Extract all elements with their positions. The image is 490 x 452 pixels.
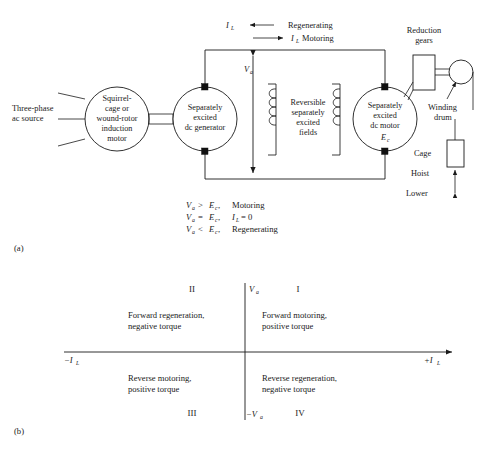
quadrant-numeral-I: I [297,284,300,294]
regenerating-label: Regenerating [288,21,333,30]
motor-positive-terminal [382,84,388,90]
dc-motor-line1: Separately [368,101,403,110]
motoring-current-subscript: L [295,38,299,44]
quadrant-II-line2: negative torque [128,321,181,331]
eq2-relation: < [198,224,203,234]
induction-motor-line1: Squirrel- [102,94,131,103]
dc-motor-line2: excited [373,111,397,120]
quadrant-numeral-II: II [189,284,195,294]
x-axis-negative-symbol: −I [64,355,74,365]
induction-motor-line3: wound-rotor [97,114,138,123]
regenerating-current-symbol: I [225,21,230,30]
y-axis-negative-symbol: −V [246,409,259,419]
eq1-right: E [208,212,215,222]
regenerating-current-subscript: L [230,25,234,31]
fields-line3: excited [296,118,320,127]
dc-motor-emf-subscript: c [387,137,390,143]
winding-drum-line1: Winding [428,103,458,112]
winding-drum-symbol [449,60,473,84]
lower-label: Lower [406,189,428,198]
dc-generator-line1: Separately [188,103,223,112]
part-a-label: (a) [14,243,24,253]
quadrant-axes [64,283,452,420]
eq1-relation: = [198,212,203,222]
cage-label: Cage [414,149,431,158]
generator-negative-terminal [202,148,208,154]
x-axis-positive-subscript: L [436,360,440,366]
quadrant-II-line1: Forward regeneration, [128,310,204,320]
eq1-result-relation: = 0 [241,212,252,222]
source-label-line1: Three-phase [12,104,54,113]
quadrant-numeral-IV: IV [295,408,305,418]
reduction-gears-line2: gears [415,36,433,45]
eq1-result-subscript: L [235,217,239,223]
eq0-comma: , [218,200,220,210]
quadrant-IV-line1: Reverse regeneration, [262,373,337,383]
quadrant-III-line1: Reverse motoring, [128,373,191,383]
induction-motor-line2: cage or [105,104,129,113]
eq0-result: Motoring [232,200,265,210]
eq2-left-sub: a [192,229,195,235]
y-axis-positive-symbol: V [249,284,256,294]
cage-box [447,140,464,167]
quadrant-I-line2: positive torque [262,321,314,331]
motoring-label: Motoring [302,34,334,43]
part-b-label: (b) [14,426,24,436]
winding-drum-line2: drum [434,113,452,122]
eq2-result: Regenerating [232,224,279,234]
eq2-comma: , [218,224,220,234]
armature-voltage-subscript: a [250,69,253,75]
motoring-current-symbol: I [290,34,295,43]
field-coil-right [332,84,340,155]
quadrant-numeral-III: III [188,408,197,418]
dc-generator-line3: dc generator [185,123,226,132]
eq1-left-sub: a [192,217,195,223]
reduction-gears-line1: Reduction [407,26,442,35]
shaft-coupling-left [149,114,173,124]
operating-conditions: V a > E c , Motoring V a = E c , I L = 0… [186,200,279,235]
figure-canvas: Three-phase ac source Squirrel- cage or … [0,0,490,452]
eq2-right: E [208,224,215,234]
eq0-right: E [208,200,215,210]
dc-motor-line3: dc motor [370,121,400,130]
quadrant-IV-line2: negative torque [262,384,315,394]
x-axis-negative-subscript: L [75,360,79,366]
fields-line2: separately [291,108,325,117]
quadrant-I-line1: Forward motoring, [262,310,327,320]
y-axis-positive-subscript: a [256,289,259,295]
reduction-gears-box [413,55,435,90]
winding-drum-pointer [447,82,456,99]
quadrant-III-line2: positive torque [128,384,180,394]
induction-motor-line5: motor [107,134,127,143]
three-phase-feed-lines [58,93,86,146]
y-axis-negative-subscript: a [260,414,263,420]
hoist-label: Hoist [411,169,430,178]
fields-line4: fields [299,128,317,137]
fields-line1: Reversible [290,98,325,107]
figure-page: Three-phase ac source Squirrel- cage or … [0,0,490,452]
dc-motor-emf-symbol: E [380,133,386,142]
field-coil-left [268,84,276,155]
induction-motor-line4: induction [102,124,133,133]
source-label-line2: ac source [12,114,44,123]
x-axis-positive-symbol: +I [424,355,434,365]
motor-negative-terminal [382,148,388,154]
eq0-left-sub: a [192,205,195,211]
dc-generator-line2: excited [193,113,217,122]
eq1-comma: , [218,212,220,222]
generator-positive-terminal [202,84,208,90]
eq0-relation: > [198,200,203,210]
